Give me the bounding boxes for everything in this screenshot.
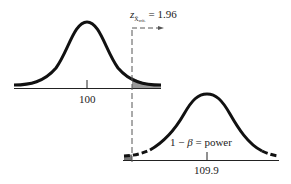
crit-subscript: crit. — [139, 18, 146, 23]
power-prefix: 1 − — [170, 136, 184, 148]
critical-value-label: zX̄crit. = 1.96 — [130, 9, 177, 24]
null-distribution-curve — [14, 22, 161, 85]
equals-sign: = — [149, 8, 155, 20]
critical-value: 1.96 — [157, 8, 176, 20]
null-mean-label: 100 — [79, 94, 96, 105]
alternative-mean-label: 109.9 — [194, 165, 219, 176]
power-label: 1 − β = power — [170, 137, 232, 148]
alternative-curve-left-tail — [124, 150, 150, 156]
beta-symbol: β — [187, 136, 192, 148]
power-suffix: = power — [195, 136, 231, 148]
alternative-curve-right-tail — [262, 151, 279, 156]
power-diagram — [0, 0, 291, 184]
arrowhead-icon — [158, 26, 164, 30]
